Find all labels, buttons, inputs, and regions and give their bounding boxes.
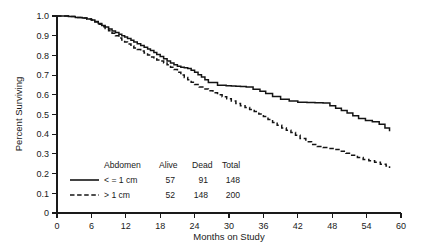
y-tick-label: 0 bbox=[44, 208, 49, 218]
legend-dead-lte-1cm: 91 bbox=[198, 175, 208, 185]
y-tick-label: 0.6 bbox=[36, 90, 49, 100]
legend-dead-gt-1cm: 148 bbox=[194, 190, 209, 200]
legend-label-lte-1cm: < = 1 cm bbox=[104, 175, 137, 185]
legend-alive-lte-1cm: 57 bbox=[165, 175, 175, 185]
y-tick-label: 0.9 bbox=[36, 31, 49, 41]
y-tick-label: 1.0 bbox=[36, 11, 49, 21]
x-tick-label: 24 bbox=[190, 221, 200, 231]
y-axis-title: Percent Surviving bbox=[13, 77, 24, 151]
x-tick-label: 36 bbox=[258, 221, 268, 231]
x-tick-label: 54 bbox=[362, 221, 372, 231]
y-axis-ticks: 00.10.20.30.40.50.60.70.80.91.0 bbox=[36, 11, 57, 218]
x-axis-ticks: 06121824303642485460 bbox=[54, 213, 406, 231]
survival-curve-chart: 00.10.20.30.40.50.60.70.80.91.0 06121824… bbox=[0, 0, 426, 248]
x-tick-label: 48 bbox=[327, 221, 337, 231]
y-tick-label: 0.5 bbox=[36, 110, 49, 120]
y-tick-label: 0.1 bbox=[36, 189, 49, 199]
legend-total-lte-1cm: 148 bbox=[226, 175, 241, 185]
x-tick-label: 12 bbox=[121, 221, 131, 231]
x-tick-label: 18 bbox=[155, 221, 165, 231]
legend-header-total: Total bbox=[222, 160, 240, 170]
x-tick-label: 6 bbox=[89, 221, 94, 231]
x-tick-label: 42 bbox=[293, 221, 303, 231]
y-tick-label: 0.3 bbox=[36, 149, 49, 159]
legend-alive-gt-1cm: 52 bbox=[165, 190, 175, 200]
plot-area: 00.10.20.30.40.50.60.70.80.91.0 06121824… bbox=[0, 0, 426, 248]
x-axis-title: Months on Study bbox=[193, 231, 265, 242]
y-tick-label: 0.7 bbox=[36, 70, 49, 80]
legend-header-alive: Alive bbox=[159, 160, 178, 170]
legend-total-gt-1cm: 200 bbox=[226, 190, 241, 200]
x-tick-label: 60 bbox=[396, 221, 406, 231]
y-tick-label: 0.2 bbox=[36, 169, 49, 179]
y-tick-label: 0.4 bbox=[36, 129, 49, 139]
legend-header-dead: Dead bbox=[192, 160, 213, 170]
legend: Abdomen Alive Dead Total < = 1 cm 57 91 … bbox=[70, 160, 240, 200]
series-line-lte-1cm bbox=[57, 16, 390, 131]
series-line-gt-1cm bbox=[57, 16, 390, 168]
legend-header-abdomen: Abdomen bbox=[104, 160, 141, 170]
x-tick-label: 30 bbox=[224, 221, 234, 231]
legend-label-gt-1cm: > 1 cm bbox=[104, 190, 130, 200]
y-tick-label: 0.8 bbox=[36, 51, 49, 61]
x-tick-label: 0 bbox=[54, 221, 59, 231]
